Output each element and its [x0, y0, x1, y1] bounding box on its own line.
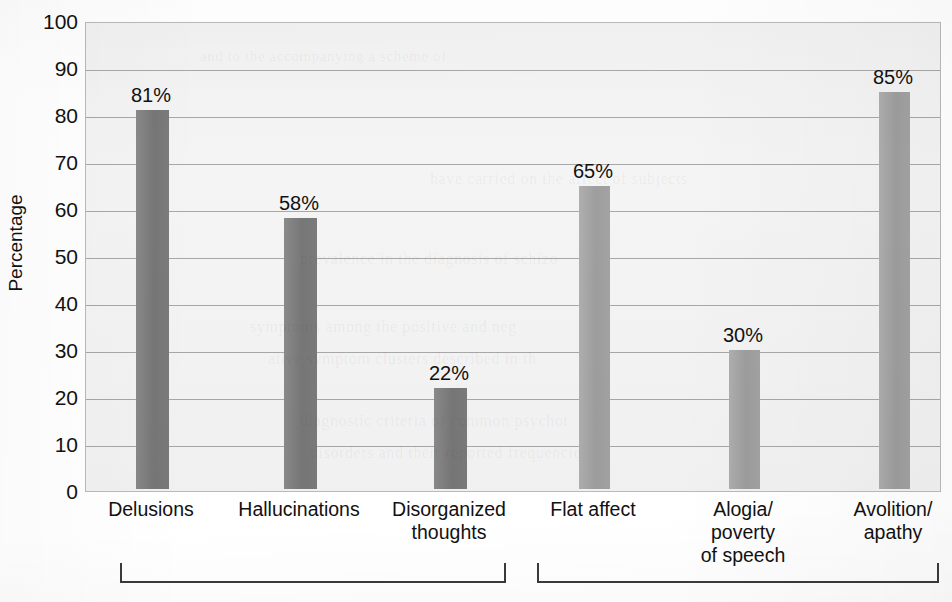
bar-value-label-5: 85% [853, 67, 933, 87]
y-tick-label-20: 20 [4, 387, 78, 408]
gridline-80 [86, 117, 940, 118]
gridline-90 [86, 70, 940, 71]
bar-1 [284, 218, 317, 489]
bar-3 [579, 186, 610, 490]
gridline-60 [86, 211, 940, 212]
bar-value-label-2: 22% [409, 363, 489, 383]
bar-value-label-4: 30% [703, 325, 783, 345]
bracket-group-2 [537, 563, 939, 583]
y-tick-label-0: 0 [4, 481, 78, 502]
gridline-20 [86, 399, 940, 400]
gridline-0 [86, 491, 940, 492]
y-tick-label-90: 90 [4, 58, 78, 79]
y-tick-label-30: 30 [4, 340, 78, 361]
y-tick-label-10: 10 [4, 434, 78, 455]
plot-area [85, 22, 941, 492]
gridline-40 [86, 305, 940, 306]
category-label-3: Flat affect [518, 498, 668, 521]
bar-4 [729, 350, 760, 489]
gridline-30 [86, 352, 940, 353]
bar-chart: and to the accompanying a scheme ofhave … [0, 0, 952, 602]
y-tick-label-80: 80 [4, 105, 78, 126]
category-label-0: Delusions [76, 498, 226, 521]
bar-value-label-3: 65% [553, 161, 633, 181]
y-tick-label-70: 70 [4, 152, 78, 173]
gridline-50 [86, 258, 940, 259]
category-label-1: Hallucinations [224, 498, 374, 521]
y-tick-label-100: 100 [4, 11, 78, 32]
bar-2 [434, 388, 467, 489]
category-label-5: Avolition/ apathy [818, 498, 952, 544]
gridline-10 [86, 446, 940, 447]
category-label-4: Alogia/ poverty of speech [668, 498, 818, 567]
category-label-2: Disorganized thoughts [374, 498, 524, 544]
gridline-70 [86, 164, 940, 165]
bar-0 [136, 110, 169, 489]
bar-value-label-1: 58% [259, 193, 339, 213]
y-axis-title: Percentage [5, 183, 27, 303]
bar-value-label-0: 81% [111, 85, 191, 105]
bar-5 [879, 92, 910, 490]
bracket-group-1 [120, 563, 506, 583]
